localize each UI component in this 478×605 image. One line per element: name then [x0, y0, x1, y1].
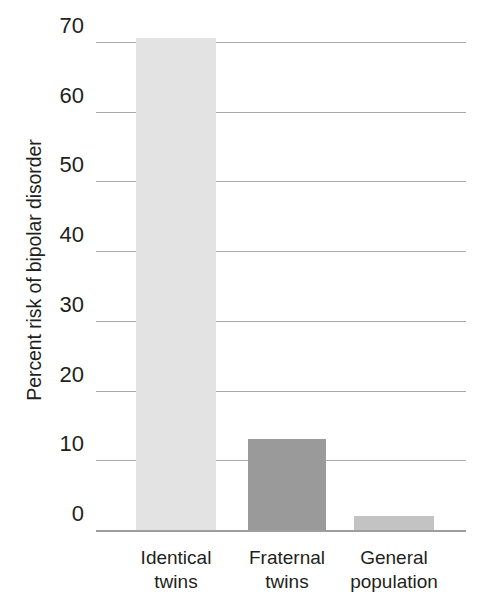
- bar-general-population: [354, 516, 434, 530]
- bar-identical-twins: [136, 38, 216, 530]
- y-tick-label-60: 60: [22, 85, 84, 107]
- y-tick-label-10: 10: [22, 433, 84, 455]
- bar-chart: Percent risk of bipolar disorder 0102030…: [0, 0, 478, 605]
- x-tick-label-general-population: Generalpopulation: [324, 546, 464, 595]
- y-tick-label-20: 20: [22, 364, 84, 386]
- y-tick-label-70: 70: [22, 15, 84, 37]
- x-tick-label-line: General: [324, 546, 464, 570]
- y-axis-title: Percent risk of bipolar disorder: [14, 0, 54, 540]
- y-tick-label-30: 30: [22, 294, 84, 316]
- bar-fraternal-twins: [248, 439, 326, 530]
- y-tick-label-50: 50: [22, 154, 84, 176]
- x-tick-label-line: population: [324, 570, 464, 594]
- plot-area: [96, 0, 466, 535]
- y-tick-label-40: 40: [22, 224, 84, 246]
- y-tick-label-0: 0: [22, 503, 84, 525]
- axis-baseline: [96, 530, 466, 532]
